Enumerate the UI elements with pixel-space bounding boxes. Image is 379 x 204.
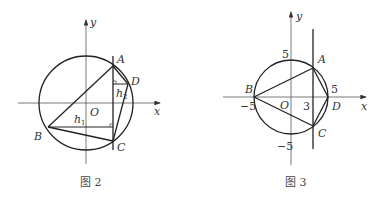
- tick-x-3: 3: [303, 100, 310, 113]
- tick-y-neg5: −5: [277, 140, 293, 153]
- tick-y-5: 5: [282, 48, 289, 61]
- y-axis-label: y: [89, 16, 97, 29]
- figure-3: y x O A B C D 5 −5 −5 5 3 图 3: [223, 10, 368, 189]
- origin-label: O: [280, 99, 289, 112]
- h2-label: h2: [116, 87, 128, 101]
- point-a-label: A: [317, 53, 326, 66]
- x-axis-label: x: [361, 100, 368, 113]
- segment-ad: [313, 68, 328, 97]
- tick-x-5: 5: [331, 83, 338, 96]
- h1-label: h1: [74, 113, 86, 127]
- y-axis-label: y: [295, 10, 303, 23]
- point-b-label: B: [33, 130, 42, 143]
- segment-bc: [48, 127, 113, 141]
- point-b-label: B: [244, 83, 253, 96]
- point-c-label: C: [117, 141, 126, 154]
- tick-x-neg5: −5: [240, 100, 256, 113]
- point-c-label: C: [318, 127, 327, 140]
- point-d-label: D: [130, 75, 140, 88]
- figure-2-caption: 图 2: [80, 176, 102, 189]
- point-a-label: A: [116, 53, 125, 66]
- diagram-canvas: y x O A D B C h1 h2 图 2 y x O A B C D 5 …: [0, 0, 379, 204]
- point-d-label: D: [331, 100, 341, 113]
- figure-2: y x O A D B C h1 h2 图 2: [18, 16, 161, 189]
- origin-label: O: [90, 106, 99, 119]
- figure-3-caption: 图 3: [285, 176, 307, 189]
- x-axis-label: x: [154, 105, 161, 118]
- segment-dc: [313, 97, 328, 126]
